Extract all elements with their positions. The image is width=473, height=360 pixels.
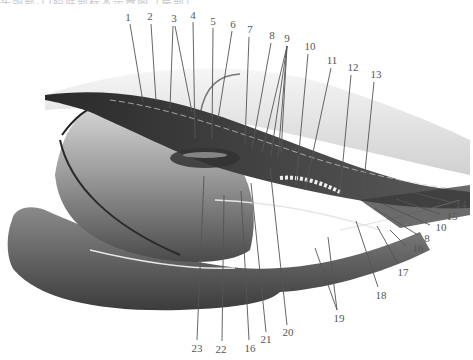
callout-label-22: 22 — [216, 344, 227, 355]
callout-label-16b: 16 — [413, 243, 424, 254]
callout-label-7: 7 — [247, 24, 253, 35]
callout-label-10b: 10 — [436, 222, 447, 233]
leader-line-21 — [251, 183, 266, 332]
callout-label-20: 20 — [283, 327, 294, 338]
callout-label-18: 18 — [376, 290, 387, 301]
gland-highlight — [183, 152, 227, 158]
callout-label-15: 15 — [447, 211, 458, 222]
callout-label-14: 14 — [456, 199, 467, 210]
callout-label-13: 13 — [371, 69, 382, 80]
callout-label-10: 10 — [305, 41, 316, 52]
callout-label-9: 9 — [284, 33, 290, 44]
callout-label-1: 1 — [125, 12, 131, 23]
callout-label-11: 11 — [327, 55, 338, 66]
callout-label-17: 17 — [398, 267, 409, 278]
callout-label-16: 16 — [245, 343, 256, 354]
callout-label-3: 3 — [171, 13, 177, 24]
anatomical-illustration — [0, 0, 473, 360]
callout-label-6: 6 — [230, 19, 236, 30]
callout-label-5: 5 — [210, 16, 216, 27]
callout-label-8b: 8 — [424, 233, 430, 244]
callout-label-23: 23 — [192, 343, 203, 354]
callout-label-21: 21 — [261, 334, 272, 345]
leader-line-20 — [270, 168, 287, 325]
callout-label-8: 8 — [269, 30, 275, 41]
callout-label-4: 4 — [190, 10, 196, 21]
callout-label-19: 19 — [334, 313, 345, 324]
callout-label-12: 12 — [348, 62, 359, 73]
callout-label-2: 2 — [147, 11, 153, 22]
